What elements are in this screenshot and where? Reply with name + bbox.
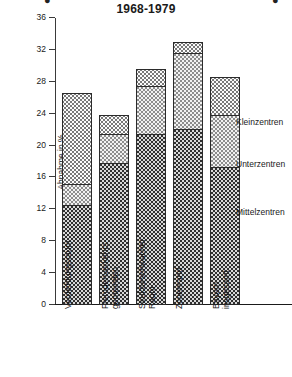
segment-kleinzentren <box>63 94 91 185</box>
legend-item-unterzentren: Unterzentren <box>236 160 285 169</box>
x-category-label: Fremdenverkehrs- gemeinden <box>101 245 120 309</box>
legend-item-mittelzentren: Mittelzentren <box>236 208 285 217</box>
segment-kleinzentren <box>174 43 202 55</box>
segment-unterzentren <box>174 54 202 130</box>
legend-label: Kleinzentren <box>236 117 283 127</box>
legend-label: Mittelzentren <box>236 207 285 217</box>
y-tick-label-4: 4 <box>41 268 46 277</box>
y-tick-28: 28 <box>49 81 55 82</box>
segment-kleinzentren <box>100 116 128 135</box>
segment-unterzentren <box>211 116 239 169</box>
y-tick-20: 20 <box>49 145 55 146</box>
bar-chart: ● ● 1968-1979 Abnahme in % 36 32 28 24 2… <box>0 0 292 377</box>
y-tick-8: 8 <box>49 240 55 241</box>
y-tick-label-24: 24 <box>37 108 46 117</box>
segment-kleinzentren <box>211 78 239 116</box>
y-tick-32: 32 <box>49 49 55 50</box>
segment-unterzentren <box>63 185 91 206</box>
x-category-label: Strukturschwacher Raum <box>138 245 157 309</box>
y-tick-0: 0 <box>49 304 55 305</box>
y-tick-12: 12 <box>49 208 55 209</box>
x-category-label: Verdichtungsraum <box>64 245 74 309</box>
y-tick-label-0: 0 <box>41 300 46 309</box>
y-tick-label-8: 8 <box>41 236 46 245</box>
y-tick-label-32: 32 <box>37 45 46 54</box>
y-tick-label-16: 16 <box>37 172 46 181</box>
x-category-label: Bayern insgesamt <box>212 245 231 309</box>
y-tick-label-28: 28 <box>37 77 46 86</box>
y-tick-36: 36 <box>49 17 55 18</box>
segment-unterzentren <box>100 135 128 164</box>
y-tick-label-36: 36 <box>37 13 46 22</box>
x-category-label: Zonenrand <box>175 245 185 309</box>
y-tick-16: 16 <box>49 176 55 177</box>
y-tick-4: 4 <box>49 272 55 273</box>
legend-label: Unterzentren <box>236 159 285 169</box>
segment-kleinzentren <box>137 70 165 87</box>
y-tick-24: 24 <box>49 113 55 114</box>
y-tick-label-20: 20 <box>37 140 46 149</box>
y-tick-label-12: 12 <box>37 204 46 213</box>
segment-unterzentren <box>137 87 165 135</box>
legend-item-kleinzentren: Kleinzentren <box>236 118 283 127</box>
